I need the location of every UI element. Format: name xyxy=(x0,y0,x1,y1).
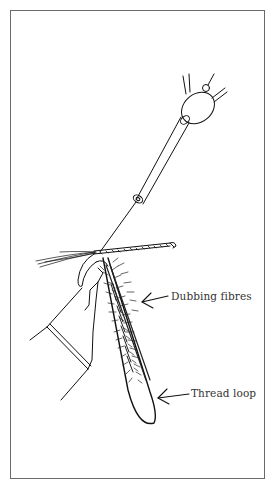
thread-loop-arrow-icon xyxy=(158,389,189,404)
hook-shank-icon xyxy=(94,242,176,254)
spinner-tool-icon xyxy=(175,74,227,130)
label-dubbing-fibres: Dubbing fibres xyxy=(171,290,252,302)
thread-line xyxy=(100,202,136,252)
dubbing-arrow-icon xyxy=(142,293,168,308)
label-thread-loop: Thread loop xyxy=(191,387,256,399)
vice-jaws-icon xyxy=(30,268,103,400)
bobbin-tube-icon xyxy=(132,117,189,205)
dubbing-fibres-icon xyxy=(100,258,150,383)
fly-tying-illustration xyxy=(0,0,277,483)
